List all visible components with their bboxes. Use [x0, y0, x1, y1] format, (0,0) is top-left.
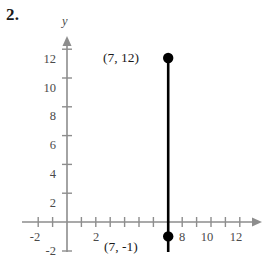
figure-container: 2. — [0, 0, 267, 267]
point-label-lower: (7, -1) — [104, 240, 138, 254]
x-tick-label-12: 12 — [225, 231, 247, 244]
coordinate-plot: 12 10 8 6 4 2 -2 -2 2 8 10 12 y (7, 12) … — [0, 0, 267, 267]
data-point-upper — [163, 53, 173, 63]
y-tick-label-10: 10 — [34, 82, 56, 95]
y-tick-label-8: 8 — [34, 110, 56, 123]
x-tick-label-10: 10 — [196, 231, 218, 244]
y-tick-label-4: 4 — [34, 168, 56, 181]
data-point-lower — [163, 231, 173, 241]
y-tick-label-2: 2 — [34, 197, 56, 210]
y-tick-label-12: 12 — [34, 53, 56, 66]
point-label-upper: (7, 12) — [103, 51, 139, 65]
x-tick-label-2: 2 — [88, 231, 104, 244]
plot-svg — [0, 0, 267, 267]
x-tick-label-8: 8 — [174, 231, 190, 244]
y-axis-name-label: y — [62, 15, 68, 28]
x-axis-arrow — [252, 218, 262, 227]
y-tick-label-neg2: -2 — [30, 245, 56, 258]
x-tick-label-neg2: -2 — [22, 231, 48, 244]
y-tick-label-6: 6 — [34, 139, 56, 152]
y-axis-arrow — [63, 36, 72, 46]
